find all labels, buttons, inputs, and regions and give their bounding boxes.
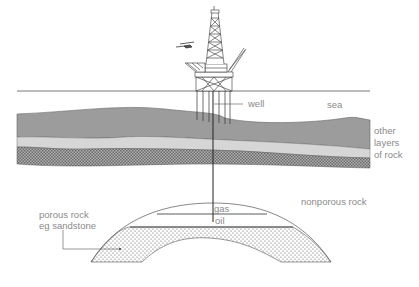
label-porous-rock: porous rock xyxy=(39,209,89,220)
label-gas: gas xyxy=(214,203,230,214)
label-other-layers-1: other xyxy=(374,125,396,136)
leader-dot xyxy=(119,248,121,250)
label-eg-sandstone: eg sandstone xyxy=(39,220,96,231)
label-other-layers-2: layers xyxy=(374,137,400,148)
label-oil: oil xyxy=(215,215,225,226)
label-well: well xyxy=(247,98,264,109)
label-other-layers-3: of rock xyxy=(374,149,403,160)
oil-well-diagram: well sea other layers of rock nonporous … xyxy=(0,0,419,287)
helicopter-icon xyxy=(176,42,194,48)
label-nonporous-rock: nonporous rock xyxy=(301,196,367,207)
label-sea: sea xyxy=(327,99,343,110)
porous-rock-layer xyxy=(91,227,331,262)
oil-platform-icon xyxy=(185,6,246,91)
